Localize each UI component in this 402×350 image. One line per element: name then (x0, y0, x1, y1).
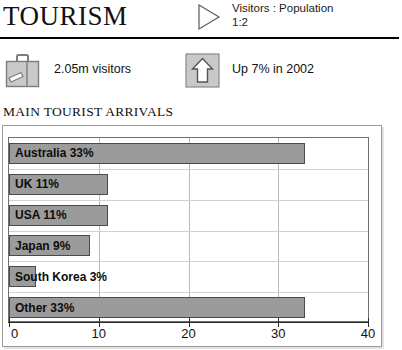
stat-growth-label: Up 7% in 2002 (232, 62, 314, 76)
bar-row[interactable]: Japan 9% (9, 235, 368, 256)
section-heading: MAIN TOURIST ARRIVALS (3, 104, 173, 120)
row-separator (9, 261, 368, 262)
page-title: TOURISM (3, 1, 128, 32)
bar-label: Other 33% (15, 297, 74, 318)
bar-label: UK 11% (15, 174, 59, 195)
up-arrow-icon (184, 51, 224, 91)
bar-row[interactable]: USA 11% (9, 205, 368, 226)
bar-row[interactable]: Australia 33% (9, 143, 368, 164)
row-separator (9, 200, 368, 201)
axis-tick-label: 20 (181, 326, 195, 341)
bar-label: USA 11% (15, 205, 67, 226)
stats-row: 2.05m visitors Up 7% in 2002 (0, 48, 402, 98)
gridline (99, 138, 100, 321)
bar-label: South Korea 3% (15, 266, 107, 287)
gridline (189, 138, 190, 321)
suitcase-icon (4, 51, 44, 91)
ratio-line-1: Visitors : Population (232, 2, 400, 16)
axis-tick-label: 30 (271, 326, 285, 341)
row-separator (9, 292, 368, 293)
header-divider (0, 37, 399, 39)
plot-area: Australia 33%UK 11%USA 11%Japan 9%South … (8, 137, 369, 322)
bar-row[interactable]: South Korea 3% (9, 266, 368, 287)
axis-tick-label: 0 (11, 326, 18, 341)
stat-visitors-label: 2.05m visitors (54, 62, 131, 76)
gridline (278, 138, 279, 321)
bar-label: Japan 9% (15, 235, 70, 256)
axis-tick (9, 318, 10, 327)
ratio-line-2: 1:2 (232, 16, 400, 30)
row-separator (9, 169, 368, 170)
ratio-text: Visitors : Population 1:2 (232, 2, 400, 29)
bar-row[interactable]: UK 11% (9, 174, 368, 195)
play-triangle-icon (196, 2, 222, 36)
axis-tick-label: 10 (92, 326, 106, 341)
axis-tick-label: 40 (361, 326, 375, 341)
page-header: TOURISM Visitors : Population 1:2 (0, 0, 402, 38)
bar-label: Australia 33% (15, 143, 94, 164)
bar-row[interactable]: Other 33% (9, 297, 368, 318)
row-separator (9, 231, 368, 232)
chart-panel: Australia 33%UK 11%USA 11%Japan 9%South … (2, 125, 382, 347)
visitors-population-ratio: Visitors : Population 1:2 (196, 2, 402, 36)
